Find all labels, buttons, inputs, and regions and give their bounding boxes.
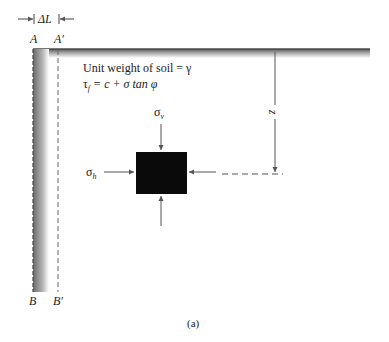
retaining-wall: [33, 49, 49, 292]
delta-l-text: ΔL: [38, 12, 52, 26]
figure-caption: (a): [187, 317, 199, 329]
sigma-v-label: σv: [154, 106, 164, 123]
unit-weight-text: Unit weight of soil = γ: [83, 62, 191, 74]
label-a-prime: A′: [54, 33, 64, 45]
label-a: A: [30, 33, 37, 45]
depth-z-label: z: [267, 110, 279, 115]
ground-surface: [33, 49, 370, 58]
label-b-prime: B′: [53, 295, 63, 307]
sigma-v-subscript: v: [160, 112, 164, 121]
sigma-h-label: σh: [86, 166, 96, 183]
sigma-h-subscript: h: [92, 172, 96, 181]
soil-element: [136, 152, 187, 194]
shear-strength-text: τf = c + σ tan φ: [83, 78, 157, 95]
label-b: B: [29, 295, 36, 307]
retaining-wall-diagram: [0, 0, 389, 342]
delta-l-label: ΔL: [38, 13, 52, 25]
shear-strength-equation: = c + σ tan φ: [90, 77, 157, 91]
